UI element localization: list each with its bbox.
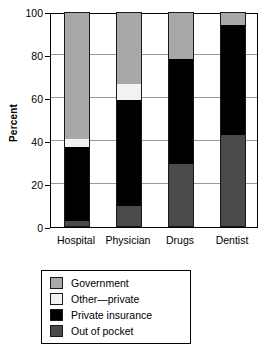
bar-segment[interactable] xyxy=(220,135,246,227)
legend-label: Private insurance xyxy=(71,309,152,321)
legend-swatch xyxy=(50,309,63,321)
bar-segment[interactable] xyxy=(116,206,142,228)
bar-segment[interactable] xyxy=(168,59,194,163)
legend-label: Government xyxy=(71,277,129,289)
y-axis-tick xyxy=(45,228,50,229)
y-axis-tick-label: 100 xyxy=(10,8,43,18)
plot-area xyxy=(50,13,258,228)
bar-segment[interactable] xyxy=(220,12,246,25)
stacked-bar-chart: Percent 020406080100 HospitalPhysicianDr… xyxy=(0,0,276,350)
y-axis-tick-label: 40 xyxy=(10,137,43,147)
bar-segment[interactable] xyxy=(220,25,246,135)
bar-dentist[interactable] xyxy=(220,12,246,227)
y-axis-tick-label: 20 xyxy=(10,180,43,190)
bar-segment[interactable] xyxy=(116,84,142,100)
legend-item[interactable]: Other—private xyxy=(42,291,190,307)
legend-item[interactable]: Out of pocket xyxy=(42,323,190,339)
bar-segment[interactable] xyxy=(64,147,90,220)
bar-segment[interactable] xyxy=(64,221,90,227)
bar-segment[interactable] xyxy=(116,100,142,205)
bar-segment[interactable] xyxy=(64,12,90,139)
bar-drugs[interactable] xyxy=(168,12,194,227)
bar-segment[interactable] xyxy=(64,139,90,148)
y-axis-tick-label: 0 xyxy=(10,223,43,233)
bar-segment[interactable] xyxy=(116,12,142,84)
bar-segment[interactable] xyxy=(168,164,194,227)
legend-item[interactable]: Government xyxy=(42,275,190,291)
legend-swatch xyxy=(50,293,63,305)
y-axis-tick-label: 80 xyxy=(10,51,43,61)
x-axis-label-dentist: Dentist xyxy=(197,234,267,246)
legend-label: Out of pocket xyxy=(71,325,133,337)
legend-item[interactable]: Private insurance xyxy=(42,307,190,323)
bar-segment[interactable] xyxy=(168,12,194,59)
legend-swatch xyxy=(50,277,63,289)
bar-physician[interactable] xyxy=(116,12,142,227)
legend-swatch xyxy=(50,325,63,337)
y-axis-tick-label: 60 xyxy=(10,94,43,104)
legend-label: Other—private xyxy=(71,293,139,305)
chart-legend: GovernmentOther—privatePrivate insurance… xyxy=(41,270,191,344)
bar-hospital[interactable] xyxy=(64,12,90,227)
